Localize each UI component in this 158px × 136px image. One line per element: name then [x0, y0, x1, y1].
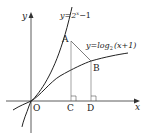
- logarithm-equation-label: y=log2(x+1): [85, 41, 136, 51]
- origin-label: O: [33, 103, 40, 113]
- right-angle-mark-d: [91, 96, 96, 101]
- point-a-label: A: [61, 34, 69, 44]
- point-c-label: C: [67, 103, 74, 113]
- exponential-equation-label: y=2x−1: [59, 10, 91, 20]
- y-axis-label: y: [21, 11, 28, 21]
- y-axis-arrow-icon: [29, 12, 34, 18]
- log-label-suffix: (x+1): [114, 41, 137, 50]
- log-label-prefix: y=log: [85, 41, 110, 50]
- exp-label-suffix: −1: [79, 11, 91, 20]
- x-axis-label: x: [135, 102, 140, 112]
- graph-canvas: y x O A B C D y=2x−1 y=log2(x+1): [0, 0, 158, 136]
- point-b-label: B: [93, 63, 100, 73]
- right-angle-mark-c: [71, 96, 76, 101]
- exp-label-prefix: y=2: [59, 11, 76, 20]
- exponential-curve: [22, 7, 72, 127]
- point-d-label: D: [87, 103, 94, 113]
- log-label-sub: 2: [110, 45, 113, 51]
- logarithm-curve-main: [13, 53, 128, 110]
